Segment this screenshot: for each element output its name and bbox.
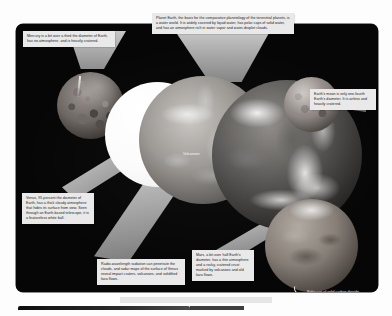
- next-figure-edge-right: [190, 306, 244, 310]
- label-polar-cap: Polar cap of solid carbon dioxide: [307, 290, 369, 292]
- callout-mercury: Mercury is a bit over a third the diamet…: [23, 31, 115, 47]
- callout-radio-mapping: Radio-wavelength radiation can penetrate…: [97, 259, 185, 285]
- callout-venus: Venus, 95 percent the diameter of Earth,…: [22, 193, 94, 224]
- callout-earth: Planet Earth, the basis for the comparat…: [152, 13, 294, 34]
- next-figure-caption-sliver: [120, 297, 272, 303]
- figure-page: Volcanoes Polar cap of solid carbon diox…: [0, 0, 392, 316]
- planet-mars: [265, 199, 358, 292]
- callout-moon: Earth's moon is only one-fourth Earth's …: [310, 89, 376, 110]
- callout-mars: Mars, a bit over half Earth's diameter, …: [192, 250, 254, 281]
- next-figure-edge: [18, 306, 190, 310]
- label-volcanoes: Volcanoes: [183, 152, 200, 157]
